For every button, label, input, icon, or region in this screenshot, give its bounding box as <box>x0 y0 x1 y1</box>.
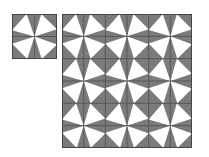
single-pinwheel-tile <box>12 14 57 59</box>
pinwheel-tiling-grid <box>62 14 192 148</box>
